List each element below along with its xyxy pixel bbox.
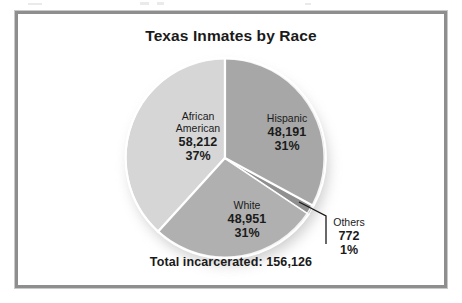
slice-label-white-category: White xyxy=(202,200,292,212)
slice-label-hispanic-percent: 31% xyxy=(246,139,328,153)
pie-chart-card: Texas Inmates by Race Afric xyxy=(18,14,444,285)
scan-artifact xyxy=(157,2,164,5)
scan-artifact xyxy=(140,2,149,5)
slice-label-others: Others 772 1% xyxy=(318,217,380,257)
slice-label-hispanic-category: Hispanic xyxy=(246,113,328,125)
slice-label-white-value: 48,951 xyxy=(202,212,292,226)
chart-title: Texas Inmates by Race xyxy=(18,27,444,45)
slice-label-white: White 48,951 31% xyxy=(202,200,292,240)
chart-footer-total: Total incarcerated: 156,126 xyxy=(18,255,444,269)
slice-label-african-american-category2: American xyxy=(157,123,239,135)
slice-label-others-value: 772 xyxy=(318,229,380,243)
slice-label-white-percent: 31% xyxy=(202,226,292,240)
slice-label-hispanic-value: 48,191 xyxy=(246,125,328,139)
slice-label-african-american-value: 58,212 xyxy=(157,135,239,149)
figure-frame: Texas Inmates by Race Afric xyxy=(15,11,447,288)
scan-artifact xyxy=(28,3,42,5)
slice-label-african-american: African American 58,212 37% xyxy=(157,111,239,163)
slice-label-others-category: Others xyxy=(318,217,380,229)
slice-label-hispanic: Hispanic 48,191 31% xyxy=(246,113,328,153)
scan-artifact xyxy=(305,3,311,5)
slice-label-african-american-percent: 37% xyxy=(157,149,239,163)
